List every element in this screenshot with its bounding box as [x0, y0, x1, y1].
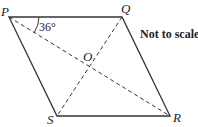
center-o-label: O: [83, 49, 93, 64]
parallelogram-diagram: P Q R S O 36° Not to scale: [0, 0, 198, 127]
vertex-p-label: P: [0, 4, 9, 19]
not-to-scale-note: Not to scale: [140, 27, 198, 41]
diagonal-qs: [57, 17, 122, 116]
vertex-q-label: Q: [121, 1, 131, 16]
angle-label: 36°: [39, 20, 56, 34]
vertex-r-label: R: [172, 110, 181, 125]
vertex-s-label: S: [47, 112, 54, 127]
